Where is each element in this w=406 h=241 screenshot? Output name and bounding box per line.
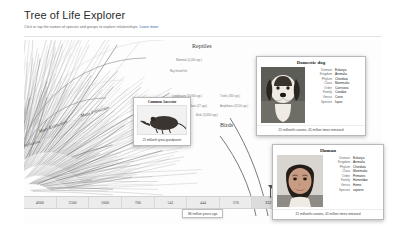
clade-label-5[interactable]: Birds (10,800 spp.) (196, 114, 218, 117)
tree-label-birds[interactable]: Birds (220, 122, 233, 128)
domestic-dog-photo (261, 67, 305, 123)
common-ancestor-card[interactable]: Common Ancestor 21 millionth great-grand… (133, 97, 191, 146)
human-card[interactable]: Human DomainEuka (272, 144, 384, 220)
timeline-tick-0[interactable]: 4600 (24, 197, 57, 208)
human-taxonomy-table: DomainEukarya KingdomAnimalia PhylumChor… (327, 155, 379, 207)
domestic-dog-card[interactable]: Domestic dog DomainEukarya (256, 56, 366, 136)
timeline-tick-3[interactable]: 700 (122, 197, 155, 208)
clade-label-0[interactable]: Mammals (5,400 spp.) (176, 59, 202, 62)
page-header: Tree of Life Explorer Click or tap the n… (0, 0, 406, 38)
ancestor-card-caption: 21 millionth great-grandparent (134, 136, 190, 145)
timeline-tooltip: 86 million years ago (182, 209, 223, 218)
timeline-tick-6[interactable]: 370 (220, 197, 253, 208)
rank-label: Species (327, 188, 353, 193)
human-child-photo (277, 155, 323, 207)
learn-more-link[interactable]: Learn more (139, 25, 158, 29)
page-subtitle: Click or tap the names of species and gr… (24, 25, 406, 29)
timeline-cursor[interactable] (270, 188, 271, 198)
dog-card-title: Domestic dog (257, 57, 365, 67)
table-row: Speciessapiens (327, 188, 379, 193)
human-card-title: Human (273, 145, 383, 155)
timeline-tick-1[interactable]: 2500 (57, 197, 90, 208)
rank-value[interactable]: lupus (335, 100, 361, 105)
tree-label-reptiles[interactable]: Reptiles (192, 43, 212, 49)
table-row: Specieslupus (309, 100, 361, 105)
rank-label: Species (309, 100, 335, 105)
human-relation-caption: 21 millionth cousins, 41 million times r… (273, 209, 383, 220)
timeline-tick-5[interactable]: 444 (187, 197, 220, 208)
clade-label-4[interactable]: Amphibians (8,100 spp.) (220, 105, 248, 108)
dog-card-body: DomainEukarya KingdomAnimalia PhylumChor… (257, 67, 365, 123)
human-card-body: DomainEukarya KingdomAnimalia PhylumChor… (273, 155, 383, 207)
ancestor-card-title: Common Ancestor (134, 98, 190, 105)
shrew-like-ancestor-photo (137, 105, 187, 135)
timeline-tick-4[interactable]: 541 (155, 197, 188, 208)
clade-label-6[interactable]: Ray-finned fish (170, 70, 187, 73)
page-title: Tree of Life Explorer (24, 9, 406, 21)
dog-relation-caption: 21 millionth cousins, 41 million times r… (257, 125, 365, 136)
timeline-tick-2[interactable]: 1000 (89, 197, 122, 208)
rank-value[interactable]: sapiens (353, 188, 379, 193)
dog-taxonomy-table: DomainEukarya KingdomAnimalia PhylumChor… (309, 67, 361, 123)
header-divider (24, 36, 382, 37)
subtitle-text: Click or tap the names of species and gr… (24, 25, 138, 29)
clade-label-2[interactable]: Turtles (350 spp.) (220, 95, 240, 98)
tree-of-life-explorer-app: Tree of Life Explorer Click or tap the n… (0, 0, 406, 241)
